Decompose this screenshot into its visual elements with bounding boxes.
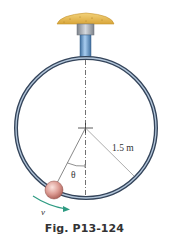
angle-label: θ <box>71 170 76 180</box>
mount-neck <box>77 24 94 35</box>
mount-stem <box>80 35 91 59</box>
angle-arc <box>68 163 86 166</box>
velocity-label: v <box>41 207 45 217</box>
mount-cap <box>57 13 114 24</box>
loop-diagram: 1.5 m θ v <box>0 0 169 242</box>
figure-caption: Fig. P13-124 <box>0 222 169 235</box>
ball <box>45 181 63 199</box>
radius-label: 1.5 m <box>112 143 134 153</box>
